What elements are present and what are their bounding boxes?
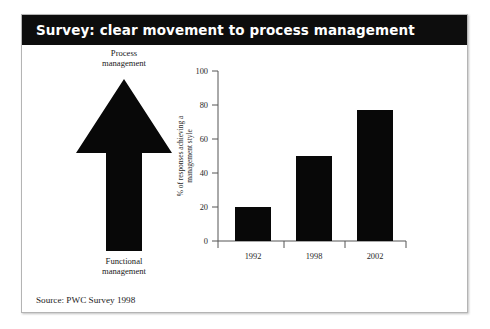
y-tick-label-100: 100 [195,67,208,76]
y-axis-title-line1: % of responses achieving a [176,115,185,196]
figure-body: Process management Functional management [22,45,467,314]
y-tick-label-0: 0 [204,237,208,246]
y-tick-label-60: 60 [200,135,208,144]
y-axis-ticks [212,71,218,241]
page-title: Survey: clear movement to process manage… [36,22,415,38]
x-tick-label-1998: 1998 [306,252,323,261]
title-bar: Survey: clear movement to process manage… [22,15,467,45]
source-caption: Source: PWC Survey 1998 [36,295,135,305]
x-tick-label-2002: 2002 [367,252,384,261]
bar-chart: 0 20 40 60 80 100 % of responses achievi… [170,45,455,295]
y-axis-title-line2: management style [185,129,194,183]
x-axis-ticks [218,241,406,248]
x-tick-label-1992: 1992 [245,252,262,261]
y-tick-label-40: 40 [200,169,208,178]
bar-1992 [235,207,271,241]
figure-container: Survey: clear movement to process manage… [21,14,468,313]
bar-2002 [357,110,393,241]
y-tick-label-80: 80 [200,101,208,110]
y-axis-title: % of responses achieving a management st… [176,115,194,196]
bar-1998 [296,156,332,241]
bar-chart-svg: 0 20 40 60 80 100 % of responses achievi… [170,45,455,295]
y-tick-label-20: 20 [200,203,208,212]
up-arrow-shape [76,79,172,251]
